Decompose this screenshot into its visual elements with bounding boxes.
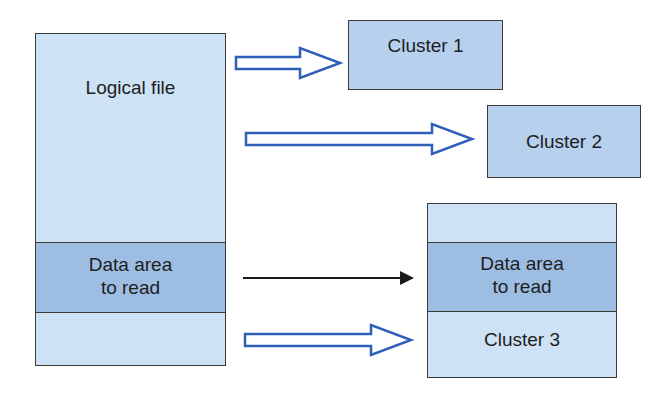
arrowhead-icon xyxy=(400,271,414,285)
arrows-layer xyxy=(0,0,665,395)
hollow-arrow-icon xyxy=(245,325,411,355)
hollow-arrow-icon xyxy=(246,124,472,154)
hollow-arrow-icon xyxy=(236,48,340,78)
